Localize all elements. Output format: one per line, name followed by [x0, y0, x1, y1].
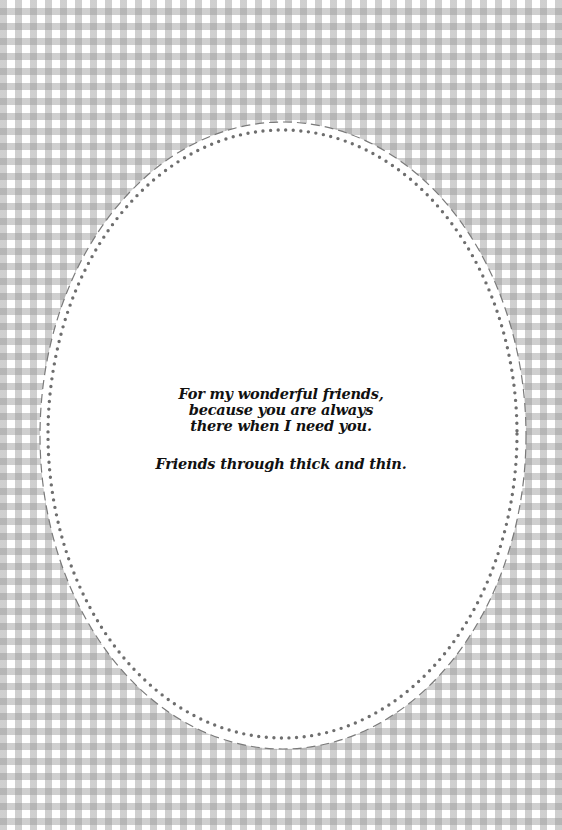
greeting-card: For my wonderful friends, because you ar…: [0, 0, 562, 830]
message-line-2: because you are always: [0, 402, 562, 418]
message-line-1: For my wonderful friends,: [0, 386, 562, 402]
message-text: For my wonderful friends, because you ar…: [0, 386, 562, 434]
message-line-3: there when I need you.: [0, 418, 562, 434]
oval-background: [40, 122, 526, 749]
closing-line: Friends through thick and thin.: [0, 455, 562, 473]
